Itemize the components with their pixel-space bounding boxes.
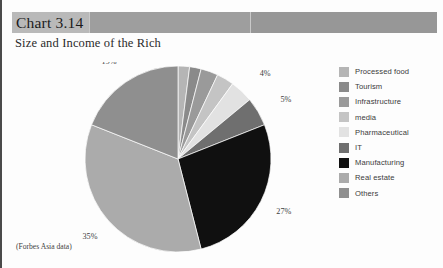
legend-item-label: Manufacturing <box>355 158 404 167</box>
legend-item[interactable]: Processed food <box>339 64 443 79</box>
legend-item[interactable]: Real estate <box>339 170 443 185</box>
legend-item[interactable]: IT <box>339 140 443 155</box>
chart-number-label: Chart 3.14 <box>16 15 83 31</box>
pie-slice-group <box>85 66 271 252</box>
legend-item-label: Tourism <box>355 82 382 91</box>
legend-swatch-icon <box>339 112 349 122</box>
legend-item[interactable]: Manufacturing <box>339 155 443 170</box>
legend-item-label: Pharmaceutical <box>355 128 409 137</box>
legend-swatch-icon <box>339 158 349 168</box>
legend-swatch-icon <box>339 173 349 183</box>
legend-item-label: Infrastructure <box>355 97 401 106</box>
pie-chart: 2%2%3%3%4%5%27%35%19% <box>64 62 304 257</box>
legend-item-label: Others <box>355 189 378 198</box>
legend-item-label: IT <box>355 143 362 152</box>
legend-swatch-icon <box>339 82 349 92</box>
legend-swatch-icon <box>339 97 349 107</box>
header-band-segment-2 <box>250 12 437 33</box>
legend-item-label: media <box>355 113 376 122</box>
legend-swatch-icon <box>339 127 349 137</box>
pie-slice-label: 19% <box>102 62 117 66</box>
chart-header-band: Chart 3.14 <box>12 12 437 33</box>
legend-item[interactable]: Tourism <box>339 79 443 94</box>
legend-swatch-icon <box>339 188 349 198</box>
chart-subtitle: Size and Income of the Rich <box>15 36 161 51</box>
pie-slice-label: 4% <box>260 69 271 78</box>
legend-item[interactable]: Infrastructure <box>339 94 443 109</box>
pie-slice-label: 5% <box>280 95 291 104</box>
legend-item[interactable]: media <box>339 110 443 125</box>
chart-legend: Processed foodTourismInfrastructuremedia… <box>339 64 443 201</box>
legend-item-label: Processed food <box>355 67 409 76</box>
pie-slice-label: 35% <box>82 232 97 241</box>
chart-number-background: Chart 3.14 <box>12 12 89 33</box>
pie-slice-label: 27% <box>276 207 291 216</box>
legend-swatch-icon <box>339 67 349 77</box>
chart-source-note: (Forbes Asia data) <box>16 242 72 251</box>
header-band-segment-1 <box>89 12 250 33</box>
legend-item[interactable]: Others <box>339 186 443 201</box>
legend-swatch-icon <box>339 143 349 153</box>
chart-page: Chart 3.14 Size and Income of the Rich 2… <box>0 0 443 268</box>
pie-chart-svg: 2%2%3%3%4%5%27%35%19% <box>64 62 304 257</box>
legend-item[interactable]: Pharmaceutical <box>339 125 443 140</box>
legend-item-label: Real estate <box>355 173 395 182</box>
